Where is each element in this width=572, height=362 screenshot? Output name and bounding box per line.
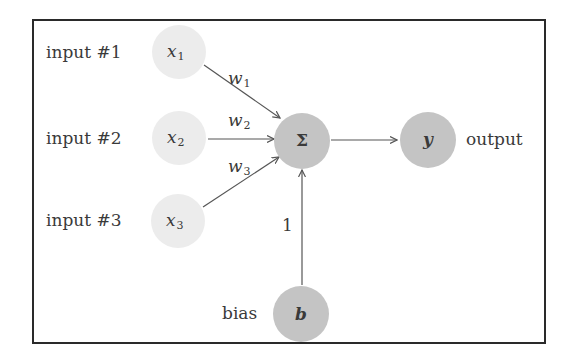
input-label-3: input #3 [46, 210, 122, 230]
bias-label: bias [222, 303, 257, 323]
perceptron-diagram: input #1 input #2 input #3 x1 x2 x3 w1 w… [0, 0, 572, 362]
weight-label-1: w1 [228, 68, 251, 90]
bias-symbol: b [295, 304, 307, 324]
input-label-2: input #2 [46, 128, 122, 148]
output-symbol: y [422, 129, 434, 149]
weight-label-2: w2 [228, 110, 251, 132]
weight-label-3: w3 [228, 156, 251, 178]
sum-symbol: Σ [296, 130, 308, 150]
bias-weight-label: 1 [282, 215, 293, 235]
output-label: output [466, 129, 523, 149]
input-label-1: input #1 [46, 42, 122, 62]
